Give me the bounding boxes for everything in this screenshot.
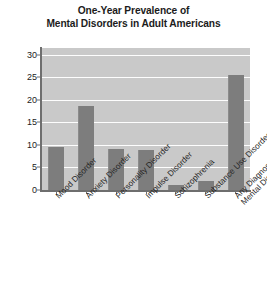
x-tick-label-line: Personality Disorder [114, 142, 173, 201]
x-tick-label: Personality Disorder [114, 142, 173, 201]
x-axis-labels: Mood DisorderAnxiety DisorderPersonality… [0, 0, 267, 284]
bar-chart-figure: One-Year Prevalence of Mental Disorders … [0, 0, 267, 284]
